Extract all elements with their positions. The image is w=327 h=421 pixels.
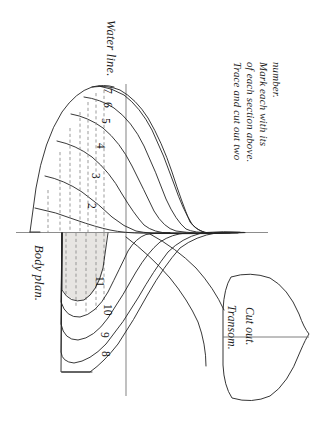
station-number-11: 11 bbox=[94, 276, 106, 287]
station-number-5: 5 bbox=[100, 118, 112, 124]
station-number-7: 7 bbox=[102, 88, 114, 94]
station-number-10: 10 bbox=[102, 304, 114, 316]
label-water-line: Water line. bbox=[103, 20, 118, 77]
label-body-plan: Body plan. bbox=[31, 245, 46, 301]
station-number-6: 6 bbox=[102, 102, 114, 108]
station-number-8: 8 bbox=[100, 351, 112, 357]
instruction-line-1: Trace and cut out two bbox=[232, 62, 244, 160]
station-number-3: 3 bbox=[90, 173, 102, 179]
buttock-lines-upper bbox=[48, 90, 104, 232]
station-number-2: 2 bbox=[86, 203, 98, 209]
instruction-line-2: of each section above. bbox=[245, 62, 257, 162]
label-transom: Transom. bbox=[226, 305, 238, 350]
drawing-canvas: Water line. Body plan. Trace and cut out… bbox=[0, 0, 327, 421]
instruction-line-3: Mark each with its bbox=[258, 62, 270, 146]
station-number-4: 4 bbox=[95, 143, 107, 149]
instruction-line-4: number. bbox=[271, 62, 283, 98]
label-cut-out: Cut out. bbox=[244, 307, 256, 346]
upper-section-curves bbox=[30, 86, 245, 234]
station-number-9: 9 bbox=[99, 332, 111, 338]
keel-shading bbox=[63, 233, 107, 300]
